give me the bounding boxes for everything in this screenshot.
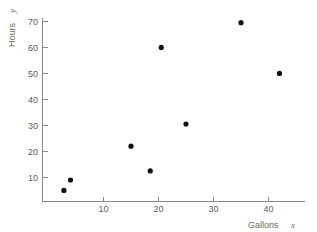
data-point bbox=[159, 45, 164, 50]
y-tick-label-60: 60 bbox=[28, 43, 38, 53]
x-tick-label-10: 10 bbox=[98, 204, 108, 214]
x-tick-label-30: 30 bbox=[208, 204, 218, 214]
x-axis-variable: x bbox=[290, 220, 295, 230]
data-point bbox=[277, 71, 282, 76]
data-point bbox=[238, 20, 243, 25]
x-tick-label-20: 20 bbox=[153, 204, 163, 214]
x-axis-title: Gallons bbox=[248, 220, 279, 230]
y-axis-tick-labels: 70 60 50 40 30 20 10 bbox=[28, 17, 38, 183]
y-tick-label-70: 70 bbox=[28, 17, 38, 27]
y-axis-ticks bbox=[43, 21, 48, 177]
scatter-plot-figure: 70 60 50 40 30 20 10 10 20 30 40 Hours y bbox=[0, 0, 317, 232]
y-tick-label-40: 40 bbox=[28, 95, 38, 105]
data-point bbox=[68, 177, 73, 182]
y-axis-title-group: Hours y bbox=[7, 9, 17, 47]
data-point-group bbox=[61, 20, 282, 193]
data-point bbox=[128, 144, 133, 149]
x-axis-title-group: Gallons x bbox=[248, 220, 295, 230]
y-tick-label-50: 50 bbox=[28, 69, 38, 79]
y-tick-label-20: 20 bbox=[28, 147, 38, 157]
x-axis-ticks bbox=[104, 197, 269, 202]
x-axis-tick-labels: 10 20 30 40 bbox=[98, 204, 273, 214]
data-point bbox=[148, 168, 153, 173]
data-point bbox=[61, 188, 66, 193]
x-tick-label-40: 40 bbox=[263, 204, 273, 214]
y-axis-variable: y bbox=[7, 9, 17, 14]
y-tick-label-10: 10 bbox=[28, 173, 38, 183]
data-point bbox=[183, 122, 188, 127]
y-axis-title: Hours bbox=[7, 22, 17, 47]
scatter-plot-svg: 70 60 50 40 30 20 10 10 20 30 40 Hours y bbox=[0, 0, 317, 232]
y-tick-label-30: 30 bbox=[28, 121, 38, 131]
